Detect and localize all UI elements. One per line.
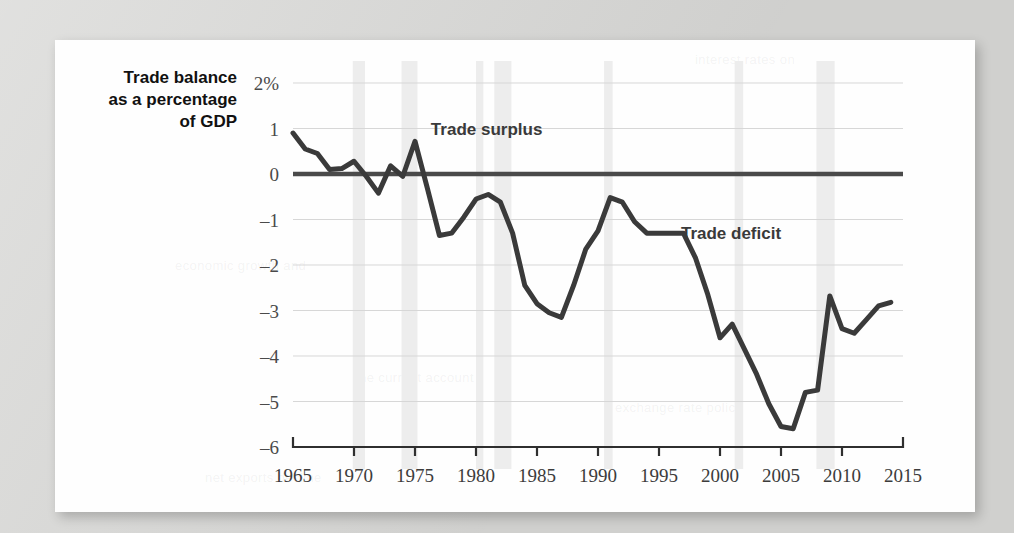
- axis-spine: [293, 437, 903, 447]
- y-axis-tick-labels: 2%10–1–2–3–4–5–6: [254, 73, 280, 458]
- y-tick-label: –3: [259, 301, 279, 322]
- y-axis-title-line2: as a percentage: [108, 90, 237, 109]
- x-tick-label: 1990: [579, 465, 617, 486]
- x-tick-label: 1970: [335, 465, 373, 486]
- x-tick-label: 2005: [762, 465, 800, 486]
- trade-balance-line: [293, 133, 891, 429]
- x-axis-ticks: [354, 447, 842, 456]
- y-tick-label: 2%: [254, 73, 280, 94]
- trade-balance-chart: 2%10–1–2–3–4–5–6 19651970197519801985199…: [0, 0, 1014, 533]
- annotation-trade-surplus: Trade surplus: [431, 120, 542, 139]
- y-axis-title-line1: Trade balance: [124, 68, 237, 87]
- y-tick-label: –2: [259, 255, 279, 276]
- annotation-trade-deficit: Trade deficit: [681, 224, 781, 243]
- x-tick-label: 1980: [457, 465, 495, 486]
- y-tick-label: –5: [259, 392, 279, 413]
- x-axis-tick-labels: 1965197019751980198519901995200020052010…: [274, 465, 922, 486]
- y-tick-label: 1: [270, 119, 280, 140]
- y-axis-title-line3: of GDP: [179, 112, 237, 131]
- x-tick-label: 2015: [884, 465, 922, 486]
- x-tick-label: 1965: [274, 465, 312, 486]
- x-tick-label: 1985: [518, 465, 556, 486]
- y-tick-label: –6: [259, 437, 279, 458]
- x-tick-label: 2010: [823, 465, 861, 486]
- chart-svg: 2%10–1–2–3–4–5–6 19651970197519801985199…: [0, 0, 1014, 533]
- x-tick-label: 1975: [396, 465, 434, 486]
- y-tick-label: –4: [259, 346, 280, 367]
- x-tick-label: 2000: [701, 465, 739, 486]
- x-tick-label: 1995: [640, 465, 678, 486]
- y-tick-label: –1: [259, 210, 279, 231]
- y-tick-label: 0: [270, 164, 280, 185]
